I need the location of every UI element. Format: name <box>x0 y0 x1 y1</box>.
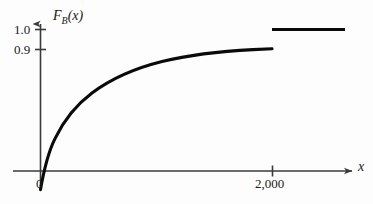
plot-canvas <box>0 0 373 204</box>
x-axis-title: x <box>358 160 364 174</box>
x-tick-label-2000: 2,000 <box>255 177 284 190</box>
y-axis-title: FB(x) <box>53 9 83 26</box>
y-tick-label-0.9: 0.9 <box>14 43 30 56</box>
cdf-curve <box>41 49 273 190</box>
y-tick-label-1.0: 1.0 <box>14 23 30 36</box>
y-axis-title-fn: F <box>53 8 62 23</box>
y-axis-title-arg: (x) <box>68 8 84 23</box>
x-tick-label-origin: 0 <box>36 177 43 190</box>
figure-container: 1.0 0.9 0 2,000 FB(x) x <box>0 0 373 204</box>
